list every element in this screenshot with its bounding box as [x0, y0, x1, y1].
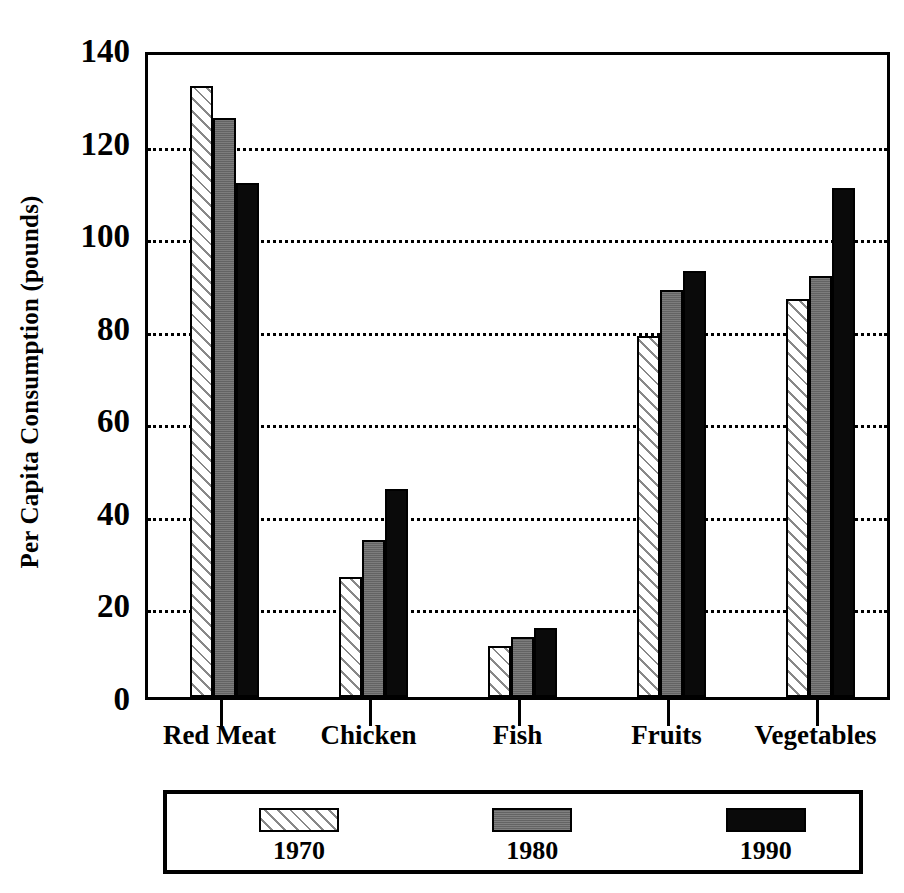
- bar-vegetables-1990: [832, 188, 855, 697]
- legend: 197019801990: [163, 790, 863, 874]
- bar-fruits-1990: [683, 271, 706, 697]
- legend-swatch-1970: [259, 808, 339, 832]
- y-axis-tick-label: 120: [10, 128, 130, 161]
- legend-label-1990: 1990: [666, 838, 866, 864]
- y-axis-tick-label: 80: [10, 313, 130, 346]
- bar-chicken-1990: [385, 489, 408, 697]
- legend-swatch-1980: [492, 808, 572, 832]
- legend-label-1980: 1980: [432, 838, 632, 864]
- bar-fish-1980: [511, 637, 534, 697]
- legend-entry-1990: 1990: [666, 794, 866, 870]
- y-axis-tick-label: 140: [10, 35, 130, 68]
- bar-red-meat-1990: [236, 183, 259, 697]
- plot-area: [145, 52, 890, 700]
- bar-chicken-1970: [339, 577, 362, 697]
- bar-red-meat-1970: [190, 86, 213, 697]
- bar-fruits-1970: [637, 336, 660, 697]
- bar-fish-1970: [488, 646, 511, 697]
- bar-fruits-1980: [660, 290, 683, 697]
- legend-label-1970: 1970: [199, 838, 399, 864]
- x-axis-label-vegetables: Vegetables: [696, 720, 904, 751]
- y-axis-tick-label: 20: [10, 590, 130, 623]
- y-axis-tick-label: 60: [10, 405, 130, 438]
- legend-swatch-1990: [726, 808, 806, 832]
- legend-entry-1970: 1970: [199, 794, 399, 870]
- bar-fish-1990: [534, 628, 557, 697]
- bar-red-meat-1980: [213, 118, 236, 697]
- bar-vegetables-1980: [809, 276, 832, 697]
- legend-entry-1980: 1980: [432, 794, 632, 870]
- bar-series-layer: [148, 55, 887, 697]
- bar-chart: Per Capita Consumption (pounds) 02040608…: [0, 0, 904, 893]
- bar-chicken-1980: [362, 540, 385, 697]
- y-axis-tick-label: 100: [10, 220, 130, 253]
- y-axis-tick-label: 40: [10, 498, 130, 531]
- y-axis-tick-label: 0: [10, 683, 130, 716]
- bar-vegetables-1970: [786, 299, 809, 697]
